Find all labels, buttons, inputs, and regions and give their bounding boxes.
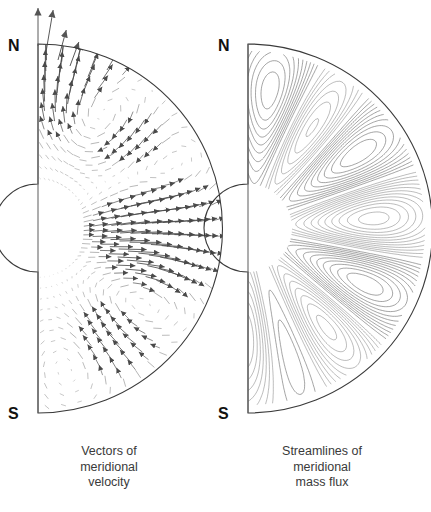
velocity-vector (123, 379, 125, 387)
velocity-vector (130, 292, 137, 293)
velocity-vector (112, 88, 119, 92)
velocity-vector (108, 99, 113, 101)
velocity-vector (184, 262, 204, 269)
velocity-vector (99, 192, 102, 195)
velocity-vector (39, 142, 43, 148)
velocity-vector (83, 215, 91, 218)
velocity-vector-field (39, 28, 225, 409)
velocity-vector (195, 171, 200, 177)
velocity-vector (53, 297, 55, 298)
velocity-vector (130, 185, 138, 187)
velocity-vector (190, 293, 196, 301)
panel-streamlines-meridional-mass-flux: N S (204, 37, 431, 422)
velocity-vector (60, 147, 65, 153)
velocity-vector (101, 322, 112, 335)
velocity-vector (108, 187, 111, 189)
velocity-vector (83, 266, 86, 267)
velocity-vector (93, 212, 104, 215)
velocity-vector (206, 167, 209, 173)
velocity-vector (59, 383, 62, 385)
velocity-vector (112, 160, 120, 166)
velocity-vector (109, 254, 129, 255)
velocity-vector (90, 127, 95, 128)
velocity-vector (154, 161, 157, 165)
velocity-vector (91, 272, 95, 274)
velocity-vector (101, 301, 106, 310)
velocity-vector (45, 167, 47, 169)
velocity-vector (83, 335, 91, 345)
velocity-vector (85, 64, 95, 86)
velocity-vector (93, 236, 108, 237)
velocity-vector (72, 192, 73, 193)
velocity-vector (83, 211, 89, 214)
streamline-contour-negative (248, 119, 425, 368)
velocity-vector (116, 325, 129, 337)
velocity-vector (62, 304, 65, 307)
velocity-vector (119, 249, 147, 250)
velocity-vector (96, 294, 98, 301)
velocity-vector (139, 352, 149, 360)
velocity-vector (40, 330, 44, 333)
velocity-vector (91, 182, 94, 183)
velocity-vector (82, 119, 85, 126)
velocity-vector (57, 317, 61, 319)
velocity-vector (91, 142, 100, 144)
velocity-vector (153, 143, 162, 151)
velocity-vector (56, 132, 61, 142)
velocity-vector (77, 100, 78, 115)
velocity-vector (102, 237, 122, 238)
velocity-vector (46, 155, 49, 159)
velocity-vector (69, 265, 70, 266)
velocity-vector (175, 191, 193, 196)
velocity-vector (66, 291, 68, 294)
velocity-vector (79, 185, 82, 186)
velocity-vector (84, 220, 94, 222)
velocity-vector (142, 336, 153, 341)
velocity-vector (52, 103, 55, 121)
velocity-vector (82, 76, 90, 96)
velocity-vector (120, 350, 130, 362)
meridional-circulation-figure: N S N S (0, 0, 431, 512)
velocity-vector (49, 330, 53, 331)
velocity-vector (102, 64, 112, 79)
velocity-vector (73, 112, 75, 125)
panel-vectors-meridional-velocity: N S (0, 8, 225, 422)
velocity-vector (57, 182, 59, 183)
velocity-vector (175, 205, 199, 210)
velocity-vector (105, 376, 106, 385)
velocity-vector (98, 76, 108, 89)
overflow-velocity-vector (46, 10, 53, 52)
velocity-vector (39, 167, 41, 169)
velocity-vector (117, 291, 120, 296)
velocity-vector (105, 267, 117, 268)
velocity-vector (43, 362, 44, 367)
velocity-vector (148, 361, 155, 367)
velocity-vector (40, 309, 43, 310)
velocity-vector (80, 173, 85, 174)
velocity-vector (74, 181, 77, 182)
velocity-vector (170, 272, 190, 280)
velocity-vector (93, 230, 108, 231)
velocity-vector (116, 265, 135, 266)
velocity-vector (90, 197, 93, 199)
velocity-vector (110, 193, 118, 196)
velocity-vector (72, 288, 73, 291)
velocity-vector (127, 145, 138, 156)
velocity-vector (117, 368, 122, 378)
velocity-vector (118, 257, 142, 258)
velocity-vector (144, 113, 151, 124)
streamline-contour-negative (256, 69, 422, 404)
velocity-vector (153, 124, 162, 134)
caption-right-line-1: Streamlines of (232, 444, 412, 460)
velocity-vector (72, 309, 77, 315)
velocity-vector (205, 283, 212, 289)
velocity-vector (173, 179, 183, 183)
velocity-vector (97, 133, 105, 137)
velocity-vector (144, 148, 152, 157)
velocity-vector (163, 156, 167, 159)
velocity-vector (80, 203, 82, 205)
velocity-vector (68, 189, 70, 190)
velocity-vector (172, 151, 177, 152)
velocity-vector (51, 286, 52, 287)
velocity-vector (184, 175, 192, 180)
